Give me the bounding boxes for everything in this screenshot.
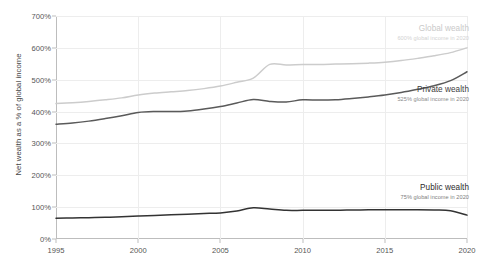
y-tick-label: 0%	[40, 235, 51, 244]
annotation-public-wealth: Public wealth 75% global income in 2020	[401, 183, 469, 200]
y-tick-label: 400%	[32, 107, 51, 116]
y-tick-label: 200%	[32, 171, 51, 180]
annotation-global-wealth: Global wealth 600% global income in 2020	[397, 24, 469, 41]
annotation-private-wealth: Private wealth 525% global income in 202…	[397, 85, 469, 102]
wealth-line-chart: Net wealth as a % of global income 0%100…	[0, 0, 483, 265]
x-tick-mark	[220, 239, 221, 243]
gridline-vertical	[467, 16, 468, 239]
annotation-private-wealth-label: Private wealth	[397, 85, 469, 94]
annotation-public-wealth-label: Public wealth	[401, 183, 469, 192]
annotation-public-wealth-value: 75% global income in 2020	[401, 194, 469, 200]
x-tick-label: 2000	[130, 246, 147, 255]
x-tick-mark	[302, 239, 303, 243]
x-tick-mark	[56, 239, 57, 243]
annotation-global-wealth-value: 600% global income in 2020	[397, 35, 469, 41]
y-tick-label: 600%	[32, 43, 51, 52]
series-lines	[56, 16, 467, 239]
x-tick-label: 1995	[48, 246, 65, 255]
annotation-global-wealth-label: Global wealth	[397, 24, 469, 33]
series-line-public-wealth	[56, 208, 467, 219]
y-tick-label: 100%	[32, 203, 51, 212]
annotation-private-wealth-value: 525% global income in 2020	[397, 96, 469, 102]
x-tick-mark	[467, 239, 468, 243]
y-tick-label: 500%	[32, 75, 51, 84]
x-tick-label: 2015	[376, 246, 393, 255]
y-tick-label: 700%	[32, 12, 51, 21]
y-axis-title: Net wealth as a % of global income	[14, 35, 23, 195]
x-tick-label: 2005	[212, 246, 229, 255]
x-tick-label: 2020	[459, 246, 476, 255]
plot-area: 0%100%200%300%400%500%600%700% 199520002…	[56, 16, 467, 239]
y-tick-label: 300%	[32, 139, 51, 148]
x-tick-label: 2010	[294, 246, 311, 255]
x-tick-mark	[384, 239, 385, 243]
x-tick-mark	[138, 239, 139, 243]
